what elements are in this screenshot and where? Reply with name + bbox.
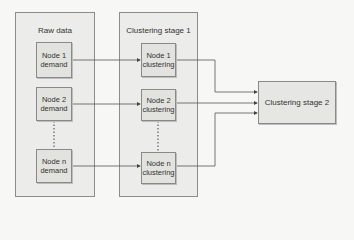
node-2-demand: Node 2demand	[36, 87, 72, 121]
clustering-stage-2: Clustering stage 2	[258, 81, 336, 124]
node-1-clustering: Node 1clustering	[141, 43, 176, 77]
node-n-demand: Node ndemand	[36, 149, 72, 183]
node-2-clustering: Node 2clustering	[141, 89, 176, 121]
node-1-demand: Node 1demand	[36, 42, 72, 78]
node-n-clustering: Node nclustering	[141, 152, 176, 184]
